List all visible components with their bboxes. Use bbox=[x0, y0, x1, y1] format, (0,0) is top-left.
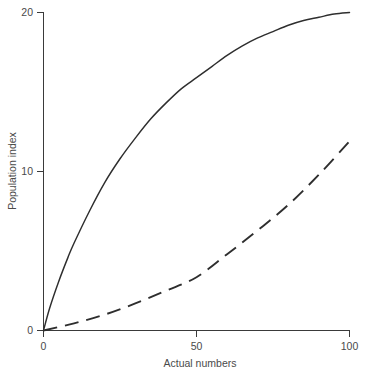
y-tick-label-20: 20 bbox=[21, 6, 33, 18]
chart-plot-area: 20 10 0 0 50 100 Actual numbers Populati… bbox=[0, 0, 370, 371]
y-axis-title: Population index bbox=[6, 131, 18, 209]
series-line-linear-reference bbox=[44, 141, 350, 330]
y-tick-label-10: 10 bbox=[21, 165, 33, 177]
x-axis-title: Actual numbers bbox=[164, 357, 237, 369]
series-line-saturating-curve bbox=[44, 13, 350, 331]
x-tick-label-100: 100 bbox=[341, 340, 359, 352]
x-tick-label-0: 0 bbox=[41, 340, 47, 352]
chart-container: 20 10 0 0 50 100 Actual numbers Populati… bbox=[0, 0, 370, 371]
y-tick-label-0: 0 bbox=[27, 324, 33, 336]
x-tick-label-50: 50 bbox=[191, 340, 203, 352]
